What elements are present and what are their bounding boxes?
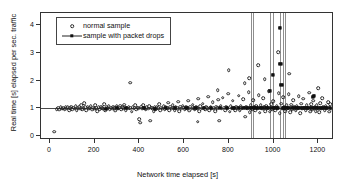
data-point — [225, 107, 228, 110]
x-tick-label: 0 — [47, 146, 51, 153]
data-point — [115, 107, 118, 110]
legend: normal sample sample with packet drops — [56, 17, 171, 45]
data-point — [328, 107, 331, 110]
data-point — [218, 107, 221, 110]
data-point — [297, 94, 301, 98]
data-point — [318, 101, 322, 105]
data-point — [227, 68, 231, 72]
x-tick-label: 1000 — [265, 146, 281, 153]
data-point — [261, 97, 265, 101]
data-point — [237, 107, 240, 110]
data-point — [211, 100, 215, 104]
x-tick-mark — [183, 139, 184, 143]
data-point — [276, 107, 279, 110]
data-point — [317, 87, 321, 91]
data-point — [166, 101, 170, 105]
data-point — [258, 111, 262, 115]
x-tick-mark — [49, 139, 50, 143]
data-point — [227, 92, 231, 96]
scatter-plot-figure: Real time [s] elapsed per sec. traffic 0… — [0, 0, 355, 188]
y-tick-label: 4 — [24, 21, 34, 28]
data-point — [194, 106, 197, 109]
x-tick-mark — [138, 139, 139, 143]
data-point — [209, 107, 212, 110]
data-point — [243, 115, 247, 119]
data-point — [271, 100, 275, 104]
x-axis-label: Network time elapsed [s] — [0, 170, 355, 179]
data-point — [247, 90, 251, 94]
data-point — [299, 102, 303, 106]
vertical-reference-line — [280, 13, 281, 138]
data-point — [281, 95, 285, 99]
vertical-reference-line — [253, 13, 254, 138]
data-point — [82, 101, 86, 105]
data-point — [243, 82, 247, 86]
x-tick-mark — [273, 139, 274, 143]
data-point — [221, 96, 225, 100]
plot-frame: normal sample sample with packet drops — [40, 12, 333, 139]
data-point — [321, 97, 325, 101]
data-point — [196, 120, 200, 124]
legend-label-normal: normal sample — [83, 21, 130, 31]
data-point — [287, 72, 291, 76]
data-point — [217, 98, 221, 102]
data-point — [174, 107, 177, 110]
x-tick-label: 1200 — [310, 146, 326, 153]
data-point — [311, 96, 314, 99]
data-point — [312, 99, 316, 103]
data-point — [185, 107, 188, 110]
data-point — [176, 100, 180, 104]
open-circle-icon — [61, 21, 83, 31]
data-point — [257, 93, 261, 97]
vertical-reference-line — [251, 13, 252, 138]
data-point — [307, 91, 311, 95]
data-point — [269, 89, 272, 92]
data-point — [186, 99, 190, 103]
data-point — [328, 103, 332, 107]
data-point — [280, 83, 283, 86]
data-point — [276, 51, 280, 55]
y-tick-label: 3 — [24, 49, 34, 56]
vertical-reference-line — [285, 13, 286, 138]
data-point — [138, 121, 142, 125]
data-point — [278, 27, 281, 30]
y-axis-label: Real time [s] elapsed per sec. traffic — [9, 8, 18, 138]
x-tick-label: 200 — [88, 146, 100, 153]
data-point — [142, 106, 145, 109]
data-point — [165, 107, 168, 110]
x-tick-mark — [228, 139, 229, 143]
x-tick-mark — [317, 139, 318, 143]
data-point — [277, 91, 281, 95]
x-tick-label: 800 — [222, 146, 234, 153]
data-point — [196, 97, 200, 101]
data-point — [251, 98, 255, 102]
x-tick-label: 400 — [133, 146, 145, 153]
legend-entry-packet-drops: sample with packet drops — [61, 31, 164, 41]
data-point — [327, 110, 331, 114]
data-point — [153, 107, 156, 110]
data-point — [247, 77, 251, 81]
vertical-reference-line — [283, 13, 284, 138]
x-tick-mark — [94, 139, 95, 143]
data-point — [291, 98, 295, 102]
y-tick-label: 2 — [24, 76, 34, 83]
data-point — [218, 119, 222, 123]
data-point — [129, 81, 133, 85]
data-point — [207, 95, 211, 99]
data-point — [278, 111, 282, 115]
data-point — [53, 130, 57, 134]
data-point — [271, 73, 274, 76]
data-point — [241, 97, 245, 101]
data-point — [237, 94, 241, 98]
x-tick-label: 600 — [177, 146, 189, 153]
y-tick-label: 0 — [24, 131, 34, 138]
data-point — [298, 111, 302, 115]
data-point — [104, 107, 107, 110]
data-point — [317, 110, 321, 114]
legend-entry-normal: normal sample — [61, 21, 164, 31]
y-tick-label: 1 — [24, 104, 34, 111]
legend-label-packet-drops: sample with packet drops — [83, 31, 164, 41]
data-point — [302, 97, 306, 101]
data-point — [231, 99, 235, 103]
data-point — [124, 107, 127, 110]
